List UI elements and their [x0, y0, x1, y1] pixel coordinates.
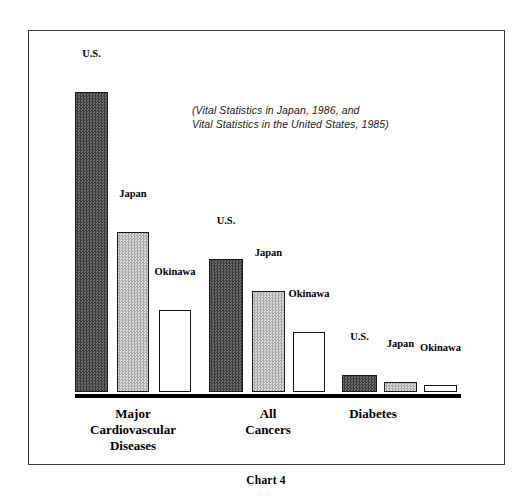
bar-diabetes-japan [384, 382, 417, 392]
bar-cardiovascular-okinawa [159, 310, 191, 392]
category-label-diabetes: Diabetes [349, 406, 397, 422]
bar-diabetes-us [342, 375, 377, 392]
bar-label-diabetes-okinawa: Okinawa [420, 342, 461, 353]
chart-caption: Chart 4 [0, 474, 532, 486]
chart-plot-area: (Vital Statistics in Japan, 1986, and Vi… [29, 31, 504, 464]
bar-cardiovascular-japan [117, 232, 149, 392]
bar-label-cancers-okinawa: Okinawa [289, 288, 330, 299]
bar-cancers-okinawa [293, 332, 325, 392]
category-label-cardiovascular: Major Cardiovascular Diseases [90, 406, 176, 454]
category-label-cancers: All Cancers [245, 406, 291, 438]
bar-cancers-japan [252, 291, 285, 392]
bar-label-cancers-us: U.S. [217, 215, 236, 226]
bar-label-cardiovascular-okinawa: Okinawa [155, 266, 196, 277]
bar-label-diabetes-us: U.S. [350, 331, 369, 342]
bar-cancers-us [209, 259, 243, 392]
bar-label-diabetes-japan: Japan [387, 338, 414, 349]
bar-cardiovascular-us [75, 92, 108, 392]
bar-label-cardiovascular-japan: Japan [119, 188, 146, 199]
bar-label-cancers-japan: Japan [255, 247, 282, 258]
chart-figure-frame: (Vital Statistics in Japan, 1986, and Vi… [28, 30, 505, 465]
bar-diabetes-okinawa [424, 385, 457, 392]
bar-label-cardiovascular-us: U.S. [82, 48, 101, 59]
x-axis-baseline [75, 394, 461, 398]
source-annotation: (Vital Statistics in Japan, 1986, and Vi… [192, 103, 389, 131]
